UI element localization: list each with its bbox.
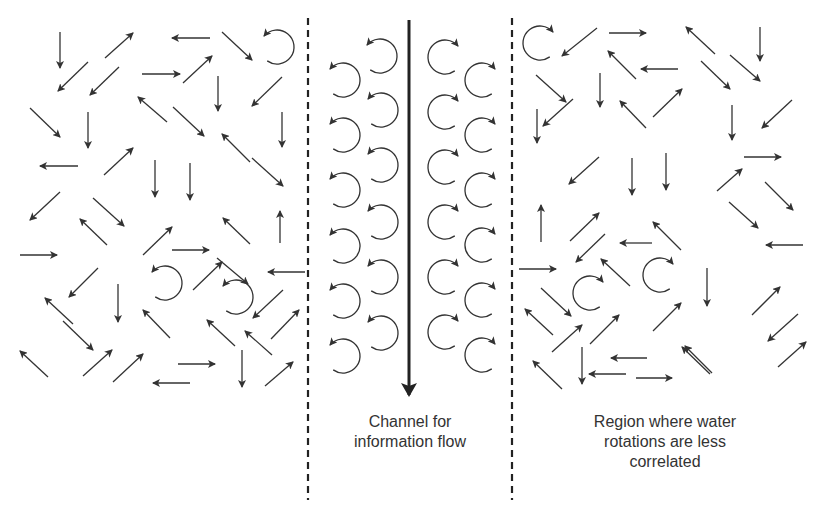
dipole-arrow-icon [686, 27, 715, 54]
dipole-arrow-icon [30, 192, 60, 220]
dipole-arrow-icon [252, 77, 282, 106]
dipole-arrow-icon [533, 361, 562, 389]
dipole-arrow-icon [525, 309, 553, 335]
rotation-cw-icon [428, 205, 458, 239]
dipole-arrow-icon [552, 325, 582, 352]
rotation-ccw-icon [368, 93, 398, 127]
dipole-arrow-icon [93, 198, 124, 226]
dipole-arrow-icon [536, 75, 566, 102]
dipole-arrow-icon [569, 157, 599, 184]
dipole-arrow-icon [730, 55, 760, 81]
rotation-ccw-icon [223, 280, 253, 314]
rotation-ccw-icon [330, 284, 360, 318]
rotation-cw-icon [428, 150, 458, 184]
dipole-arrow-icon [682, 347, 710, 374]
rotation-cw-icon [465, 63, 495, 97]
rotation-ccw-icon [368, 148, 398, 182]
dipole-arrow-icon [762, 100, 792, 128]
rotation-cw-icon [465, 173, 495, 207]
dipole-arrow-icon [570, 213, 599, 241]
dipole-arrow-icon [765, 182, 793, 210]
dipole-arrow-icon [105, 33, 133, 58]
water-dipole-arrows [20, 27, 806, 389]
rotation-ccw-icon [330, 173, 360, 207]
dipole-arrow-icon [717, 169, 742, 191]
rotation-cw-icon [465, 118, 495, 152]
rotation-cw-icon [523, 26, 553, 60]
dipole-arrow-icon [576, 234, 605, 262]
rotation-ccw-icon [264, 30, 294, 64]
dipole-arrow-icon [183, 56, 212, 83]
dipole-arrow-icon [653, 303, 681, 331]
dipole-arrow-icon [252, 158, 283, 186]
dipole-arrow-icon [138, 97, 167, 122]
dipole-arrow-icon [143, 227, 172, 255]
dipole-arrow-icon [90, 67, 119, 95]
dipole-arrow-icon [45, 298, 73, 324]
dipole-arrow-icon [590, 315, 619, 344]
dipole-arrow-icon [271, 310, 299, 339]
dipole-arrow-icon [113, 354, 143, 382]
dipole-arrow-icon [223, 218, 250, 244]
dipole-arrow-icon [729, 202, 758, 228]
dipole-arrow-icon [193, 262, 222, 290]
rotation-cw-icon [428, 260, 458, 294]
dipole-arrow-icon [653, 222, 681, 250]
dipole-arrow-icon [253, 290, 283, 318]
rotation-ccw-icon [330, 63, 360, 97]
rotation-ccw-icon [330, 118, 360, 152]
dipole-arrow-icon [562, 28, 597, 56]
dipole-arrow-icon [752, 287, 780, 315]
rotation-ccw-icon [330, 229, 360, 263]
rotation-cw-icon [428, 40, 458, 74]
dipole-arrow-icon [30, 108, 60, 137]
rotation-ccw-icon [368, 316, 398, 350]
rotation-ccw-icon [330, 339, 360, 373]
dipole-arrow-icon [104, 148, 133, 175]
dipole-arrow-icon [58, 62, 88, 91]
dipole-arrow-icon [63, 321, 93, 350]
dipole-arrow-icon [222, 32, 252, 60]
rotation-ccw-icon [367, 39, 397, 73]
rotation-cw-icon [643, 258, 673, 292]
dipole-arrow-icon [701, 61, 730, 89]
dipole-arrow-icon [608, 51, 636, 79]
dipole-arrow-icon [207, 320, 235, 346]
dipole-arrow-icon [80, 219, 107, 245]
rotation-cw-icon [465, 283, 495, 317]
dipole-arrow-icon [541, 288, 571, 316]
rotation-ccw-icon [368, 205, 398, 239]
dipole-arrow-icon [543, 99, 573, 126]
rotation-cw-icon [428, 315, 458, 349]
dipole-arrow-icon [222, 134, 250, 162]
region-label: Region where water rotations are less co… [555, 412, 775, 472]
dipole-arrow-icon [601, 259, 630, 286]
dipole-arrow-icon [20, 351, 48, 377]
dipole-arrow-icon [265, 362, 293, 386]
dipole-arrow-icon [83, 350, 112, 376]
dipole-arrow-icon [173, 107, 204, 136]
dipole-arrow-icon [778, 342, 806, 367]
dipole-arrow-icon [653, 89, 682, 117]
rotation-arrows [152, 26, 673, 373]
rotation-cw-icon [465, 338, 495, 372]
dipole-arrow-icon [69, 268, 98, 297]
rotation-cw-icon [428, 95, 458, 129]
water-rotation-diagram: Channel for information flow Region wher… [0, 0, 823, 522]
dipole-arrow-icon [685, 346, 712, 373]
dipole-arrow-icon [768, 314, 798, 341]
rotation-ccw-icon [152, 266, 182, 300]
dipole-arrow-icon [245, 331, 272, 355]
rotation-cw-icon [573, 276, 603, 310]
dipole-arrow-icon [620, 101, 646, 128]
channel-label: Channel for information flow [320, 412, 500, 452]
rotation-ccw-icon [368, 260, 398, 294]
rotation-cw-icon [465, 228, 495, 262]
dipole-arrow-icon [143, 310, 170, 338]
